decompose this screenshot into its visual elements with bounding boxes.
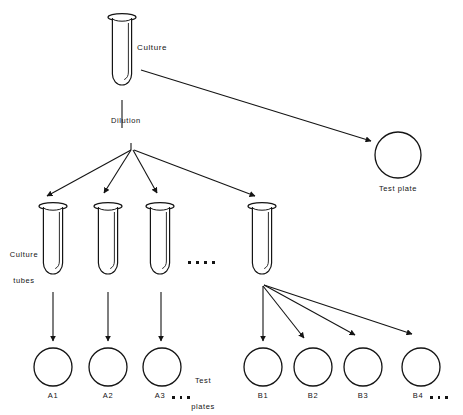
plate-circles-row-a bbox=[34, 348, 181, 386]
plate-b4-circle bbox=[402, 348, 440, 386]
plate-a3-circle bbox=[143, 348, 181, 386]
plate-a2-label: A2 bbox=[103, 392, 113, 401]
plate-b3-label: B3 bbox=[358, 392, 368, 401]
test-plates-label: Test plates bbox=[191, 359, 215, 415]
plate-b3-circle bbox=[344, 348, 382, 386]
culture-tubes-label-line2: tubes bbox=[10, 277, 38, 286]
dilution-label: Dilution bbox=[111, 117, 141, 126]
arrows-tubes-to-plates-a bbox=[53, 292, 161, 341]
culture-tubes-ellipsis bbox=[188, 261, 215, 264]
plate-a1-label: A1 bbox=[48, 392, 58, 401]
plate-b1-label: B1 bbox=[258, 392, 268, 401]
plate-circles-row-b bbox=[244, 348, 440, 386]
plate-a1-circle bbox=[34, 348, 72, 386]
culture-tubes-label: Culture tubes bbox=[10, 233, 38, 304]
arrows-tube4-to-plates-b bbox=[263, 285, 412, 341]
culture-tubes-label-line1: Culture bbox=[10, 251, 38, 260]
plate-b2-circle bbox=[294, 348, 332, 386]
plate-b4-label: B4 bbox=[413, 392, 423, 401]
test-plate-circle bbox=[375, 132, 421, 178]
plate-b-ellipsis bbox=[430, 396, 448, 399]
test-plates-label-line1: Test bbox=[191, 377, 215, 386]
culture-label: Culture bbox=[137, 43, 167, 52]
test-plates-label-line2: plates bbox=[191, 403, 215, 412]
arrow-culture-to-test-plate bbox=[141, 70, 371, 141]
culture-tube-row-glyphs bbox=[39, 203, 276, 274]
culture-tube-glyph bbox=[108, 14, 136, 85]
plate-b1-circle bbox=[244, 348, 282, 386]
plate-b2-label: B2 bbox=[308, 392, 318, 401]
plate-a2-circle bbox=[89, 348, 127, 386]
plate-a3-label: A3 bbox=[155, 392, 165, 401]
test-plate-label: Test plate bbox=[379, 185, 417, 194]
dilution-fanout-arrows bbox=[47, 150, 255, 196]
plate-a-ellipsis bbox=[172, 396, 190, 399]
